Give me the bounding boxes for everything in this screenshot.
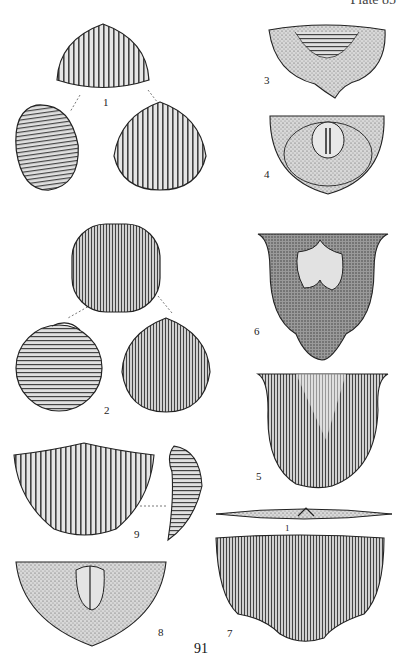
figure-5-label: 5 bbox=[256, 470, 262, 482]
figure-7-label: 7 bbox=[227, 627, 233, 639]
page-number: 91 bbox=[194, 641, 208, 657]
figure-4-valve-interior bbox=[266, 110, 388, 196]
figure-1-label: 1 bbox=[103, 96, 109, 108]
figure-9-valve-exterior bbox=[10, 441, 158, 541]
figure-6-valve-interior bbox=[256, 230, 390, 362]
figure-5-valve-exterior bbox=[256, 370, 390, 490]
figure-8-label: 8 bbox=[158, 626, 164, 638]
figure-1-ventral-view bbox=[112, 100, 208, 192]
figure-2-lateral-view bbox=[14, 316, 104, 414]
figure-3-valve-exterior bbox=[265, 22, 389, 100]
figure-2-label: 2 bbox=[104, 404, 110, 416]
figure-9-label: 9 bbox=[134, 528, 140, 540]
figure-7-small-label: 1 bbox=[285, 523, 290, 533]
figure-1-top-view bbox=[53, 20, 153, 95]
figure-4-label: 4 bbox=[264, 168, 270, 180]
figure-2-ventral-view bbox=[120, 316, 212, 414]
figure-3-label: 3 bbox=[264, 74, 270, 86]
figure-6-label: 6 bbox=[254, 325, 260, 337]
figure-1-lateral-view bbox=[12, 100, 82, 192]
figure-9-lateral-profile bbox=[164, 442, 204, 542]
figure-8-valve-interior bbox=[14, 560, 168, 648]
figure-7-hinge-profile bbox=[214, 504, 394, 526]
figure-7-valve-exterior bbox=[214, 534, 386, 646]
figure-2-dorsal-view bbox=[70, 222, 162, 314]
plate-header: Plate 85 bbox=[351, 0, 397, 8]
